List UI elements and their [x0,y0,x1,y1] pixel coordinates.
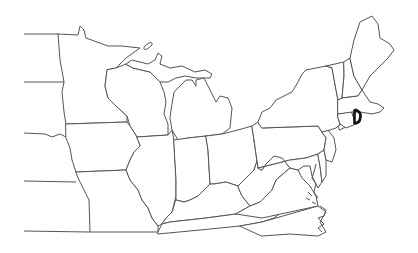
state-nebraska-border[interactable] [24,133,66,137]
isle-royale [143,41,153,50]
state-michigan-lower[interactable] [170,78,232,140]
us-eastern-outline-map [0,0,418,253]
state-maine[interactable] [350,16,394,90]
state-kansas-border[interactable] [24,181,76,182]
state-kansas-south-border[interactable] [24,231,90,232]
state-new-york[interactable] [258,66,340,132]
